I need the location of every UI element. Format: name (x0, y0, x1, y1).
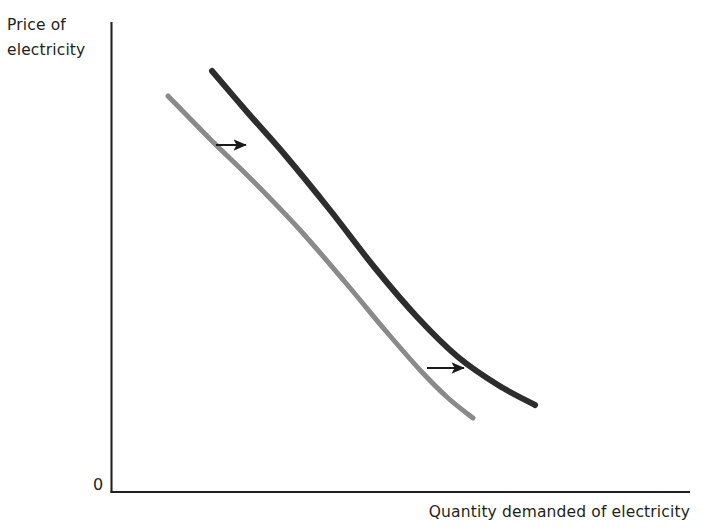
demand-curve-shifted (212, 71, 535, 405)
x-axis-label: Quantity demanded of electricity (429, 500, 690, 525)
origin-label: 0 (93, 477, 103, 493)
y-axis-label-line1: Price of (7, 13, 85, 38)
demand-curve-figure: Price of electricity Quantity demanded o… (0, 0, 701, 532)
y-axis-label-line2: electricity (7, 38, 85, 63)
chart-canvas (0, 0, 701, 532)
y-axis-label: Price of electricity (7, 13, 85, 63)
demand-curve-original (168, 96, 473, 418)
